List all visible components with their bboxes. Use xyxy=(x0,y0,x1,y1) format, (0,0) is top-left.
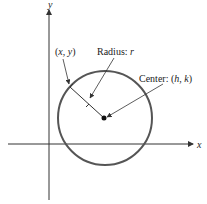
center-arrow xyxy=(107,84,163,117)
point-label: (x, y) xyxy=(55,46,76,58)
radius-arrow xyxy=(90,58,114,98)
circle-diagram: y x (x, y) Radius: r Center: (h, k) xyxy=(0,0,207,204)
center-point xyxy=(102,116,107,121)
y-axis-label: y xyxy=(47,0,53,10)
center-label: Center: (h, k) xyxy=(139,73,192,85)
radius-tick xyxy=(86,104,89,107)
x-axis-label: x xyxy=(196,139,202,150)
radius-line xyxy=(70,87,104,118)
point-arrow xyxy=(63,59,69,84)
radius-label: Radius: r xyxy=(97,46,134,57)
